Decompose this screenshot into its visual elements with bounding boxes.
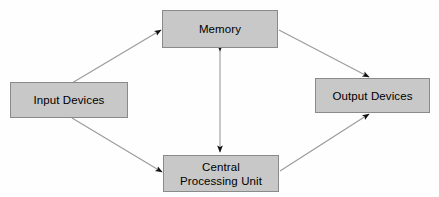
block-diagram: Memory Input Devices Output Devices Cent… [0,0,439,197]
edge-cpu-to-output [280,114,369,171]
edge-input-to-memory [72,30,161,83]
node-memory: Memory [162,10,278,48]
edge-input-to-cpu [72,118,162,172]
node-central-processing-unit-label: Central Processing Unit [177,160,265,188]
node-input-devices: Input Devices [10,82,128,118]
node-output-devices-label: Output Devices [329,89,415,103]
node-input-devices-label: Input Devices [31,93,108,107]
edge-memory-to-output [279,30,369,77]
node-central-processing-unit: Central Processing Unit [163,155,279,192]
node-memory-label: Memory [196,22,244,36]
node-output-devices: Output Devices [315,78,430,113]
